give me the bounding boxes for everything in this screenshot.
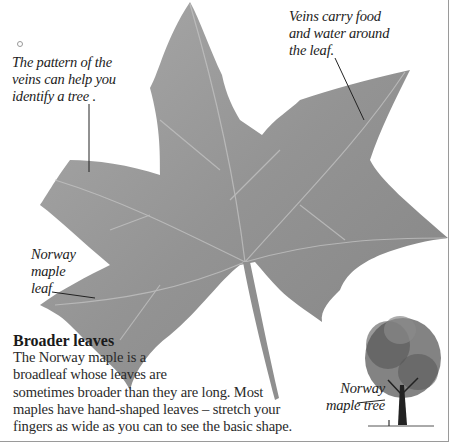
- caption-line: leaf: [31, 280, 91, 297]
- caption-line: The pattern of the: [12, 54, 142, 71]
- caption-line: and water around: [289, 25, 419, 42]
- caption-line: Norway: [31, 246, 91, 263]
- page-border-bottom: [0, 441, 449, 442]
- caption-vein-pattern: The pattern of the veins can help you id…: [12, 54, 142, 105]
- body-line: The Norway maple is a: [13, 349, 313, 366]
- caption-line: the leaf.: [289, 42, 419, 59]
- caption-line: maple tree: [305, 397, 385, 414]
- body-line: maples have hand-shaped leaves – stretch…: [13, 401, 313, 418]
- page-border-right: [448, 0, 449, 441]
- section-body: The Norway maple is a broadleaf whose le…: [13, 349, 313, 435]
- body-line: fingers as wide as you can to see the ba…: [13, 418, 313, 435]
- section-heading: Broader leaves: [13, 332, 114, 350]
- body-line: broadleaf whose leaves are: [13, 366, 313, 383]
- caption-veins-carry-food: Veins carry food and water around the le…: [289, 8, 419, 59]
- caption-line: Norway: [305, 380, 385, 397]
- page: The pattern of the veins can help you id…: [0, 0, 451, 446]
- caption-line: identify a tree .: [12, 88, 142, 105]
- small-circle-mark: [17, 41, 23, 47]
- caption-norway-maple-leaf: Norway maple leaf: [31, 246, 91, 297]
- caption-line: veins can help you: [12, 71, 142, 88]
- body-line: sometimes broader than they are long. Mo…: [13, 384, 313, 401]
- caption-line: Veins carry food: [289, 8, 419, 25]
- caption-norway-maple-tree: Norway maple tree: [305, 380, 385, 414]
- caption-line: maple: [31, 263, 91, 280]
